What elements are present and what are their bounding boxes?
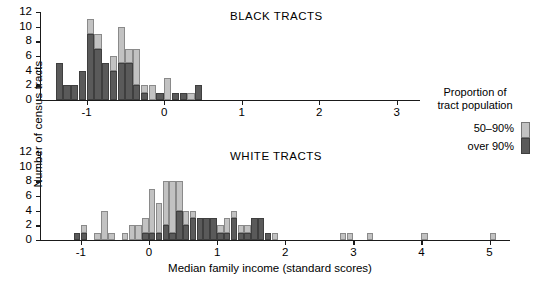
y-tick-1-12 (36, 152, 40, 153)
bar-segment-over-90 (71, 85, 78, 100)
bar-segment-over-90 (79, 71, 86, 100)
plot-area-black-tracts: 024681012-10123 (40, 12, 420, 112)
x-tick-label-1-4: 4 (411, 247, 431, 259)
bar-segment-over-90 (133, 85, 140, 100)
histogram-bar (183, 211, 189, 240)
bar-segment-over-90 (195, 85, 202, 100)
histogram-bar (101, 211, 107, 240)
histogram-bar (102, 63, 109, 100)
y-axis-line-1 (40, 152, 41, 241)
bar-segment-over-90 (180, 93, 187, 100)
y-tick-label-1-2: 2 (12, 219, 32, 231)
bar-segment-over-90 (125, 63, 132, 100)
bar-segment-50-90 (238, 225, 244, 232)
x-tick-label-1-1: 1 (207, 247, 227, 259)
y-tick-1-4 (36, 211, 40, 212)
y-tick-label-1-0: 0 (12, 234, 32, 246)
histogram-bar (180, 93, 187, 100)
bar-segment-over-90 (87, 34, 94, 100)
panel-title-black-tracts: BLACK TRACTS (230, 10, 323, 22)
x-tick-label-0--1: -1 (77, 107, 97, 119)
histogram-bar (122, 233, 128, 240)
bar-segment-50-90 (340, 233, 346, 240)
chart-panel-white-tracts: 024681012-1012345 WHITE TRACTS (40, 152, 510, 252)
y-tick-label-1-6: 6 (12, 190, 32, 202)
x-tick-label-0-0: 0 (154, 107, 174, 119)
legend-swatches (521, 122, 530, 154)
y-tick-1-8 (36, 181, 40, 182)
bar-segment-50-90 (118, 27, 125, 64)
bar-segment-50-90 (231, 211, 237, 218)
histogram-bar (195, 85, 202, 100)
bar-segment-50-90 (149, 189, 155, 233)
chart-panel-black-tracts: 024681012-10123 BLACK TRACTS (40, 12, 420, 112)
bar-segment-over-90 (94, 49, 101, 100)
x-tick-label-0-2: 2 (309, 107, 329, 119)
bar-segment-over-90 (156, 93, 163, 100)
bar-segment-over-90 (163, 225, 169, 240)
histogram-bar (118, 27, 125, 100)
histogram-bar (367, 233, 373, 240)
x-tick-label-1--1: -1 (71, 247, 91, 259)
histogram-bar (71, 85, 78, 100)
bar-segment-over-90 (56, 63, 63, 100)
histogram-bar (56, 63, 63, 100)
histogram-bar (347, 233, 353, 240)
y-tick-label-1-12: 12 (12, 146, 32, 158)
bar-segment-50-90 (125, 49, 132, 64)
histogram-bar (133, 49, 140, 100)
histogram-bar (238, 225, 244, 240)
bar-segment-50-90 (169, 181, 175, 232)
bar-segment-50-90 (142, 218, 148, 233)
x-axis-line-1 (40, 240, 510, 241)
x-tick-1-2 (285, 241, 286, 245)
x-tick-1-1 (217, 241, 218, 245)
legend-swatch-over-90 (521, 138, 530, 154)
bar-segment-over-90 (141, 93, 148, 100)
x-tick-label-0-1: 1 (232, 107, 252, 119)
bar-segment-50-90 (272, 233, 278, 240)
y-tick-label-0-4: 4 (12, 65, 32, 77)
y-tick-label-0-12: 12 (12, 6, 32, 18)
bar-segment-50-90 (156, 203, 162, 232)
x-tick-1--1 (81, 241, 82, 245)
legend-title-line1: Proportion of (420, 86, 530, 99)
x-tick-0--1 (87, 101, 88, 105)
bar-segment-over-90 (110, 71, 117, 100)
y-tick-0-10 (36, 27, 40, 28)
panel-title-white-tracts: WHITE TRACTS (230, 150, 322, 162)
histogram-bar (340, 233, 346, 240)
bar-segment-50-90 (135, 225, 141, 240)
bar-segment-50-90 (347, 233, 353, 240)
histogram-bar (156, 93, 163, 100)
y-tick-0-6 (36, 56, 40, 57)
bar-segment-50-90 (490, 233, 496, 240)
bar-segment-50-90 (224, 218, 230, 233)
bar-segment-50-90 (133, 49, 140, 86)
y-tick-label-1-4: 4 (12, 205, 32, 217)
histogram-bar (149, 85, 156, 100)
histogram-bar (81, 225, 87, 240)
histogram-bar (129, 225, 135, 240)
histogram-bar (224, 218, 230, 240)
bar-segment-50-90 (110, 56, 117, 71)
y-tick-label-0-0: 0 (12, 94, 32, 106)
y-tick-0-2 (36, 85, 40, 86)
bar-segment-50-90 (129, 225, 135, 240)
bar-segment-over-90 (118, 63, 125, 100)
x-tick-1-3 (353, 241, 354, 245)
histogram-bar (169, 181, 175, 240)
x-tick-0-1 (242, 101, 243, 105)
histogram-bar (172, 93, 179, 100)
histogram-bar (142, 218, 148, 240)
bar-segment-over-90 (210, 218, 216, 240)
y-tick-label-1-8: 8 (12, 175, 32, 187)
y-tick-0-0 (36, 100, 40, 101)
histogram-bar (87, 19, 94, 100)
histogram-bar (94, 233, 100, 240)
bar-segment-over-90 (63, 85, 70, 100)
histogram-bar (63, 85, 70, 100)
bar-segment-50-90 (421, 233, 427, 240)
y-tick-1-0 (36, 240, 40, 241)
bar-segment-50-90 (190, 211, 196, 218)
